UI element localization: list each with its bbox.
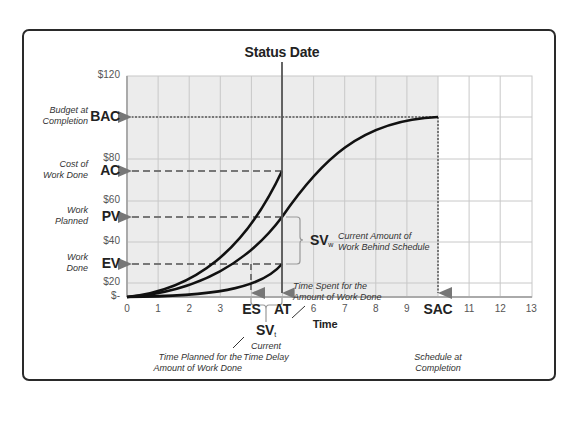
x-tick-label: 13 (511, 303, 551, 314)
y-marker-description: WorkPlanned (20, 205, 88, 227)
at-description: Time Spent for the Amount of Work Done (293, 281, 382, 303)
status-date-title: Status Date (232, 44, 332, 60)
y-tick-label: $20 (70, 276, 120, 287)
y-tick-label: $60 (70, 194, 120, 205)
svw-label: SVw (310, 232, 333, 248)
svw-description: Current Amount of Work Behind Schedule (338, 231, 430, 253)
svt-description: Current Time Delay (236, 341, 296, 363)
svt-label: SVt (246, 322, 286, 338)
x-axis-label: Time (305, 318, 345, 330)
y-marker-description: WorkDone (20, 252, 88, 274)
y-tick-label: $120 (70, 69, 120, 80)
y-tick-label: $40 (70, 235, 120, 246)
es-description: Time Planned for the Amount of Work Done (150, 352, 242, 374)
plot-area-plain (438, 76, 532, 297)
y-marker-description: Budget atCompletion (20, 105, 88, 127)
y-marker-description: Cost ofWork Done (20, 159, 88, 181)
y-tick-label: $- (70, 290, 120, 301)
sac-description: Schedule at Completion (408, 352, 468, 374)
